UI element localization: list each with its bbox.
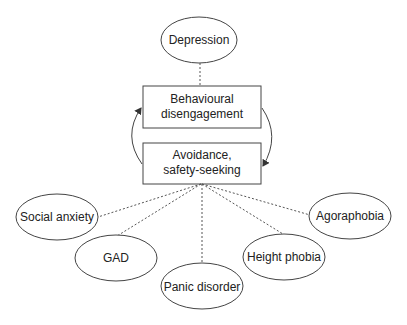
diagram-canvas: Depression Behavioural disengagement Avo… xyxy=(0,0,407,325)
connector-social-anxiety xyxy=(98,184,201,217)
agoraphobia-label: Agoraphobia xyxy=(316,209,384,224)
behavioural-disengagement-label: Behavioural disengagement xyxy=(161,92,243,122)
cycle-arrow-left xyxy=(132,108,142,164)
connector-agoraphobia xyxy=(202,184,310,215)
cycle-arrow-right xyxy=(262,108,272,166)
connector-height-phobia xyxy=(202,184,283,234)
height-phobia-label: Height phobia xyxy=(247,250,321,265)
gad-label: GAD xyxy=(103,251,129,266)
social-anxiety-label: Social anxiety xyxy=(20,210,94,225)
depression-label: Depression xyxy=(169,33,230,48)
panic-disorder-label: Panic disorder xyxy=(164,280,241,295)
avoidance-label: Avoidance, safety-seeking xyxy=(163,148,240,178)
connector-gad xyxy=(117,184,201,236)
